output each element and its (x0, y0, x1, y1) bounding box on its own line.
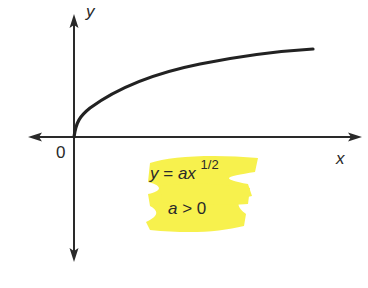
y-axis-label: y (86, 2, 95, 22)
equation-exponent: 1/2 (201, 157, 219, 172)
x-axis-label: x (336, 149, 345, 169)
x-axis (28, 133, 362, 142)
equation-a: a (178, 164, 187, 183)
condition-rest: > 0 (177, 199, 206, 218)
origin-label: 0 (56, 143, 65, 163)
condition-label: a > 0 (168, 199, 206, 219)
equation-equals: = (159, 164, 178, 183)
equation-y: y (150, 164, 159, 183)
sqrt-curve (74, 49, 313, 137)
equation-x: x (187, 164, 196, 183)
equation-label: y = ax 1/2 (150, 160, 219, 184)
